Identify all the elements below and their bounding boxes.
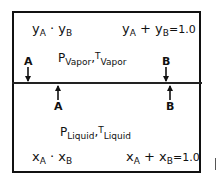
liquid-sum-equation: xA + xB=1.0 [126,150,200,166]
liquid-conditions: PLiquid,TLiquid [60,126,131,141]
edge-mark [215,158,216,170]
liquid-mole-fractions: xA · xB [32,150,72,166]
arrow-down-icon [162,67,170,83]
arrow-down-icon [24,67,32,83]
arrow-label-a-down: A [24,56,33,67]
arrow-label-b-up: B [166,101,174,112]
vapor-conditions: PVapor,TVapor [58,52,126,67]
arrow-up-icon [54,84,62,100]
vapor-mole-fractions: yA · yB [32,22,72,38]
arrow-up-icon [166,84,174,100]
arrow-label-b-down: B [162,56,170,67]
vapor-sum-equation: yA + yB=1.0 [122,22,196,38]
arrow-label-a-up: A [54,101,63,112]
